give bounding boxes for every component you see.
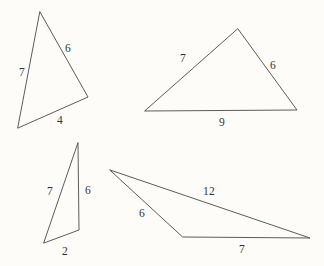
triangle-top-left-side-label-bottom: 4 (57, 114, 63, 126)
triangle-bottom-right-side-label-left: 6 (139, 207, 145, 219)
triangle-top-right-side-label-left: 7 (180, 52, 186, 64)
triangle-top-right-side-label-right: 6 (270, 59, 276, 71)
triangle-bottom-left-side-label-left: 7 (47, 185, 53, 197)
triangle-bottom-right-side-label-bottom: 7 (239, 243, 245, 255)
triangle-bottom-left-side-label-bottom: 2 (62, 245, 68, 257)
triangle-bottom-left-side-label-right: 6 (85, 184, 91, 196)
geometry-figure-sheet: 7 6 4 7 6 9 7 6 2 6 12 7 (0, 0, 324, 266)
triangle-bottom-right-outline (110, 170, 310, 238)
triangles-canvas (0, 0, 324, 266)
triangle-top-right-side-label-bottom: 9 (219, 116, 225, 128)
triangle-bottom-right-side-label-top: 12 (203, 185, 215, 197)
triangle-top-left-outline (18, 12, 88, 128)
triangle-top-left-side-label-left: 7 (19, 66, 25, 78)
triangle-top-left-side-label-right: 6 (65, 42, 71, 54)
